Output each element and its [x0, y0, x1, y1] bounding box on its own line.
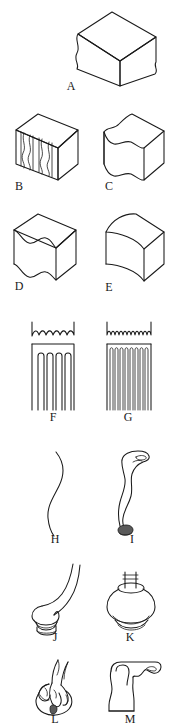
panel-label-J: J — [47, 631, 63, 643]
figure-plate: A B — [0, 0, 176, 728]
panel-label-L: L — [47, 713, 63, 725]
panel-label-B: B — [11, 180, 27, 192]
panel-F: F — [28, 318, 90, 422]
panel-J: J — [28, 558, 88, 642]
panel-D: D — [8, 208, 88, 292]
panel-label-I: I — [124, 533, 140, 545]
cabriole-leg-icon — [108, 446, 158, 542]
panel-label-K: K — [122, 631, 138, 643]
panel-I: I — [108, 446, 158, 542]
panel-L: L — [28, 655, 88, 725]
panel-A: A — [52, 6, 162, 90]
panel-label-M: M — [122, 713, 138, 725]
wavy-profile-block-single-icon — [52, 6, 162, 90]
panel-label-D: D — [11, 280, 27, 292]
curved-leg-with-pad-foot-icon — [28, 558, 88, 642]
panel-C: C — [98, 108, 174, 192]
panel-G: G — [103, 318, 165, 422]
coarse-comb-icon — [28, 318, 90, 422]
s-curve-line-icon — [33, 446, 83, 542]
panel-H: H — [33, 446, 83, 542]
panel-B: B — [8, 108, 88, 192]
panel-K: K — [103, 558, 163, 642]
panel-label-E: E — [101, 281, 117, 293]
panel-label-C: C — [101, 180, 117, 192]
panel-label-F: F — [45, 411, 61, 423]
panel-E: E — [98, 208, 174, 292]
panel-label-H: H — [47, 533, 63, 545]
fine-comb-icon — [103, 318, 165, 422]
panel-label-G: G — [120, 411, 136, 423]
panel-label-A: A — [63, 80, 79, 92]
panel-M: M — [103, 655, 165, 725]
